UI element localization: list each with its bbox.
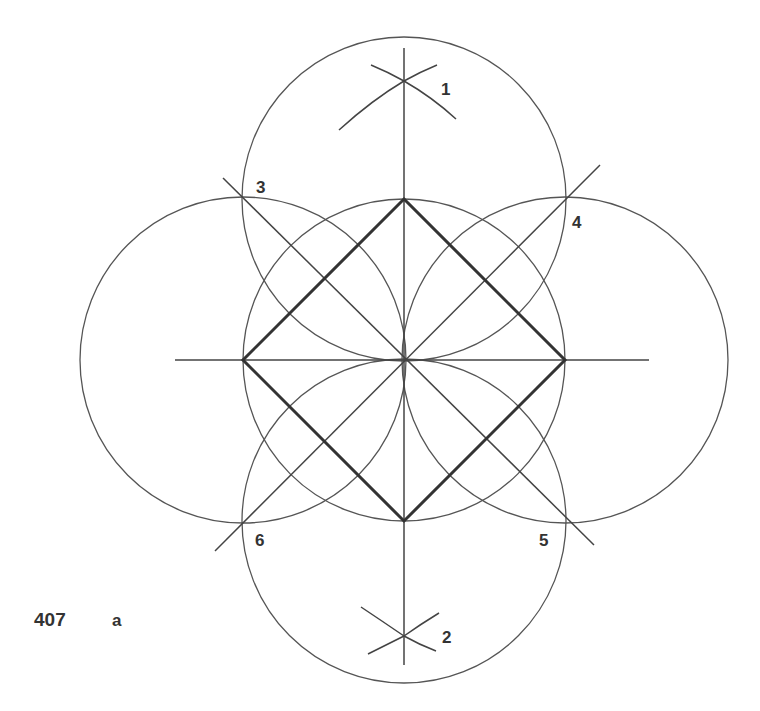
arc-1a [339, 65, 437, 130]
point-label-1: 1 [441, 80, 450, 99]
figure-sublabel: a [112, 611, 122, 630]
figure-number: 407 [34, 609, 66, 630]
point-label-2: 2 [442, 628, 451, 647]
point-label-5: 5 [539, 531, 548, 550]
point-label-6: 6 [255, 531, 264, 550]
arc-2a [361, 607, 436, 651]
point-label-3: 3 [256, 178, 265, 197]
diagonal-3-5 [223, 178, 594, 545]
geometric-construction: 1 2 3 4 5 6 407 a [0, 0, 760, 711]
point-label-4: 4 [572, 213, 582, 232]
